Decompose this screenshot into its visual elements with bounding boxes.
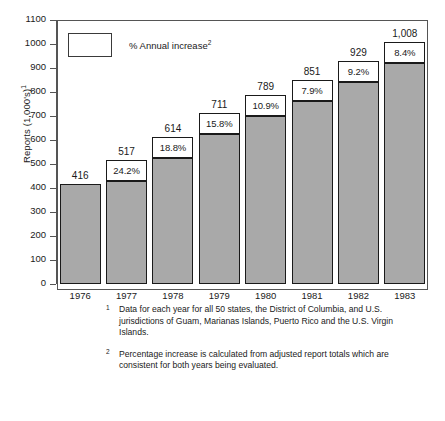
y-axis-tick-mark	[50, 188, 56, 189]
annual-increase-label: 18.8%	[160, 142, 186, 153]
y-axis-tick-label: 300	[30, 205, 46, 216]
x-axis-tick-label: 1976	[57, 290, 103, 301]
bar-value-label: 711	[191, 99, 248, 110]
y-axis-tick-label: 1100	[26, 13, 46, 24]
bar-group: 10.9%789	[245, 95, 286, 284]
bar-segment-annual-increase: 9.2%	[338, 61, 379, 82]
bar-value-label: 517	[98, 146, 155, 157]
legend-swatch-annual-increase	[68, 33, 112, 57]
y-axis-title: Reports (1,000's)1	[20, 44, 32, 204]
footnote-text: Percentage increase is calculated from a…	[119, 349, 406, 372]
annual-increase-label: 9.2%	[348, 66, 369, 77]
footnote-marker: 2	[106, 346, 110, 358]
x-axis-tick-label: 1977	[103, 290, 149, 301]
bar-group: 416	[60, 184, 101, 284]
y-axis-tick-mark	[50, 236, 56, 237]
y-axis-title-superscript: 1	[20, 85, 27, 89]
y-axis-tick-mark	[50, 92, 56, 93]
y-axis-tick-label: 0	[41, 277, 46, 288]
bar-value-label: 851	[284, 66, 341, 77]
bar-chart-figure: 110010009008007006005004003002001000 Rep…	[0, 0, 445, 421]
footnote-marker: 1	[106, 302, 110, 314]
y-axis-tick-mark	[50, 44, 56, 45]
bar-segment-reports	[338, 82, 379, 284]
bar-segment-reports	[106, 181, 147, 284]
bar-segment-annual-increase: 15.8%	[199, 113, 240, 134]
x-axis-tick-label: 1979	[196, 290, 242, 301]
bar-group: 24.2%517	[106, 160, 147, 284]
bar-segment-annual-increase: 7.9%	[292, 80, 333, 101]
y-axis-tick-mark	[50, 68, 56, 69]
bar-segment-reports	[292, 101, 333, 284]
bar-segment-annual-increase: 24.2%	[106, 160, 147, 181]
bar-value-label: 614	[144, 123, 201, 134]
y-axis-tick-label: 500	[30, 157, 46, 168]
y-axis-tick-label: 900	[30, 61, 46, 72]
annual-increase-label: 8.4%	[394, 47, 415, 58]
bar-segment-reports	[384, 63, 425, 284]
bar-value-label: 1,008	[376, 28, 433, 39]
annual-increase-label: 10.9%	[252, 100, 278, 111]
bar-value-label: 789	[237, 81, 294, 92]
legend-label-superscript: 2	[208, 39, 212, 46]
y-axis-tick-label: 200	[30, 229, 46, 240]
x-axis-tick-label: 1980	[243, 290, 289, 301]
bar-group: 9.2%929	[338, 61, 379, 284]
y-axis-tick-label: 800	[30, 85, 46, 96]
x-axis-tick-label: 1978	[150, 290, 196, 301]
y-axis-title-text: Reports (1,000's)	[21, 89, 32, 163]
y-axis-tick-mark	[50, 212, 56, 213]
y-axis-tick-label: 400	[30, 181, 46, 192]
bar-segment-annual-increase: 10.9%	[245, 95, 286, 116]
legend-label-text: % Annual increase	[129, 40, 208, 51]
annual-increase-label: 15.8%	[206, 118, 232, 129]
bar-group: 8.4%1,008	[384, 42, 425, 284]
y-axis-tick-label: 100	[30, 253, 46, 264]
y-axis-tick-mark	[50, 260, 56, 261]
y-axis-tick-mark	[50, 140, 56, 141]
y-axis-tick-mark	[50, 116, 56, 117]
bar-segment-reports	[245, 116, 286, 284]
footnote: 2Percentage increase is calculated from …	[106, 349, 406, 372]
bar-segment-reports	[199, 134, 240, 284]
y-axis-tick-label: 600	[30, 133, 46, 144]
bar-value-label: 416	[52, 170, 109, 181]
footnote: 1Data for each year for all 50 states, t…	[106, 304, 406, 339]
y-axis-tick-mark	[50, 164, 56, 165]
y-axis-tick-label: 700	[30, 109, 46, 120]
bar-group: 18.8%614	[152, 137, 193, 284]
chart-legend: % Annual increase2	[68, 33, 211, 57]
bar-group: 15.8%711	[199, 113, 240, 284]
annual-increase-label: 24.2%	[113, 165, 139, 176]
x-axis-tick-label: 1982	[335, 290, 381, 301]
x-axis-tick-label: 1983	[382, 290, 428, 301]
bars-layer: 41624.2%51718.8%61415.8%71110.9%7897.9%8…	[57, 20, 428, 284]
bar-segment-reports	[152, 158, 193, 284]
y-axis-tick-mark	[50, 20, 56, 21]
bar-group: 7.9%851	[292, 80, 333, 284]
footnote-text: Data for each year for all 50 states, th…	[119, 304, 406, 339]
bar-value-label: 929	[330, 47, 387, 58]
footnotes: 1Data for each year for all 50 states, t…	[106, 304, 406, 372]
bar-segment-reports	[60, 184, 101, 284]
bar-segment-annual-increase: 8.4%	[384, 42, 425, 63]
bar-segment-annual-increase: 18.8%	[152, 137, 193, 158]
x-axis-tick-label: 1981	[289, 290, 335, 301]
legend-label-annual-increase: % Annual increase2	[129, 39, 211, 51]
y-axis-tick-mark	[50, 284, 56, 285]
annual-increase-label: 7.9%	[301, 85, 322, 96]
